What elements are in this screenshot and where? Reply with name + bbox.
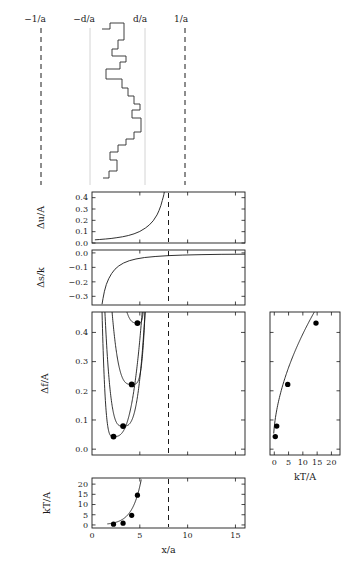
delta-f-minimum-marker-3	[129, 381, 135, 387]
delta-f-ytick-label-4: 0.0	[75, 445, 88, 454]
delta-f-minimum-marker-2	[120, 423, 126, 429]
delta-s-axis-label: Δs/k	[35, 267, 46, 288]
kt-xtick-label-1: 5	[137, 531, 142, 540]
delta-u-axis-label: Δu/A	[35, 206, 46, 229]
right-xtick-label-1: 5	[286, 458, 291, 467]
delta-s-ytick-label-1: −0.1	[69, 263, 88, 272]
delta-f-curve-2	[105, 312, 145, 426]
delta-f-ytick-label-3: 0.1	[75, 416, 88, 425]
kt-right-panel-frame	[270, 312, 340, 455]
kt-right-point-4	[313, 320, 318, 325]
delta-f-curve-1	[102, 312, 142, 437]
right-xtick-label-4: 20	[326, 458, 336, 467]
kt-ytick-label-2: 10	[78, 500, 88, 509]
delta-u-ytick-label-2: 0.2	[75, 216, 88, 225]
delta-u-panel-frame	[92, 192, 245, 243]
delta-u-ytick-label-1: 0.3	[75, 205, 88, 214]
kt-over-a-axis-label: kT/A	[294, 471, 316, 482]
right-xtick-label-0: 0	[272, 458, 277, 467]
top-label-1: −d/a	[73, 14, 95, 24]
delta-u-curve	[95, 192, 164, 240]
delta-s-ytick-label-3: −0.3	[69, 292, 88, 301]
scientific-figure: −1/a−d/ad/a1/a0.40.30.20.10.0Δu/A0.0−0.1…	[0, 0, 360, 565]
delta-f-ytick-label-2: 0.2	[75, 387, 88, 396]
kt-right-point-3	[285, 382, 290, 387]
delta-f-curve-4	[127, 312, 143, 323]
top-label-2: d/a	[133, 14, 148, 24]
delta-s-ytick-label-0: 0.0	[75, 249, 88, 258]
right-xtick-label-3: 15	[312, 458, 322, 467]
delta-f-minimum-marker-4	[135, 320, 141, 326]
kt-right-point-1	[273, 434, 278, 439]
kt-right-point-2	[274, 423, 279, 428]
delta-s-curve	[102, 254, 245, 304]
staircase-profile	[102, 23, 141, 178]
right-xtick-label-2: 10	[298, 458, 308, 467]
delta-u-ytick-label-0: 0.4	[75, 193, 88, 202]
kt-bottom-point-4	[135, 493, 140, 498]
top-label-0: −1/a	[24, 14, 46, 24]
kt-bottom-curve	[107, 480, 141, 524]
kt-ytick-label-4: 0	[83, 521, 88, 530]
kt-bottom-panel-frame	[92, 478, 245, 528]
x-over-a-axis-label: x/a	[161, 544, 176, 555]
delta-f-ytick-label-1: 0.3	[75, 357, 88, 366]
top-label-3: 1/a	[174, 14, 189, 24]
delta-u-ytick-label-4: 0.0	[75, 239, 88, 248]
kt-right-curve	[274, 312, 315, 433]
kt-xtick-label-0: 0	[89, 531, 94, 540]
kt-bottom-axis-label: kT/A	[41, 492, 52, 514]
kt-xtick-label-2: 10	[183, 531, 193, 540]
kt-xtick-label-3: 15	[230, 531, 240, 540]
delta-f-minimum-marker-1	[111, 434, 117, 440]
kt-bottom-point-2	[120, 521, 125, 526]
kt-ytick-label-1: 15	[78, 490, 88, 499]
delta-f-ytick-label-0: 0.4	[75, 328, 88, 337]
kt-ytick-label-3: 5	[83, 511, 88, 520]
delta-s-ytick-label-2: −0.2	[69, 278, 88, 287]
kt-bottom-point-3	[129, 513, 134, 518]
delta-f-axis-label: Δf/A	[39, 373, 50, 394]
kt-bottom-point-1	[111, 522, 116, 527]
delta-u-ytick-label-3: 0.1	[75, 227, 88, 236]
kt-ytick-label-0: 20	[78, 480, 88, 489]
